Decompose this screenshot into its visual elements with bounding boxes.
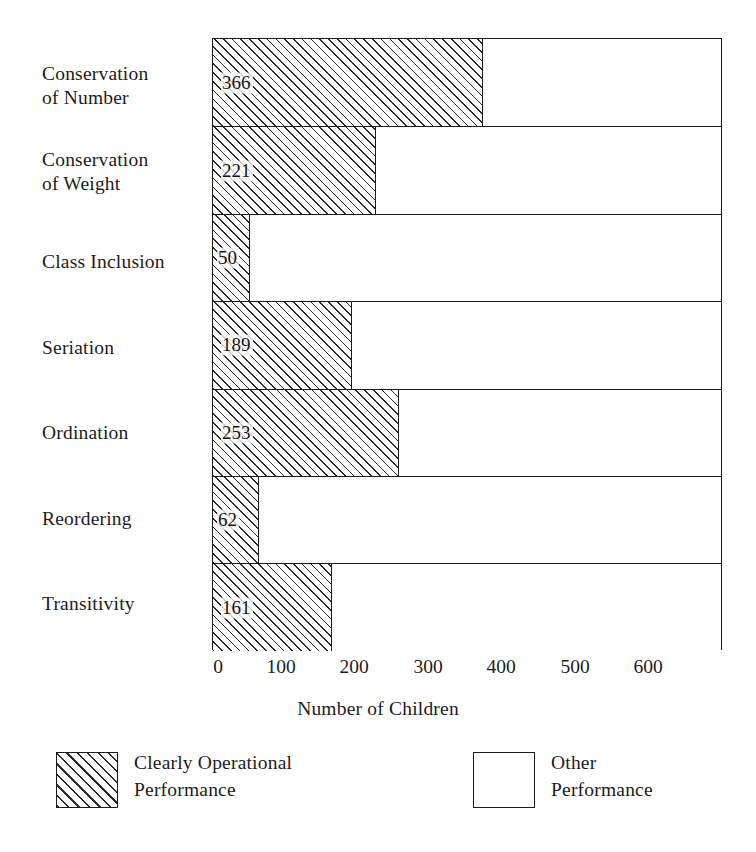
bar-value-label: 253 [221, 422, 253, 443]
category-label-ordination: Ordination [42, 421, 210, 445]
bar-segment-clearly-operational: 221 [213, 127, 376, 213]
bar-segment-other-performance [399, 390, 721, 476]
bar-value-label: 366 [221, 72, 253, 93]
xtick-label-500: 500 [560, 655, 589, 679]
bar-row-reordering: 62 [213, 476, 721, 563]
bar-segment-other-performance [332, 564, 721, 651]
bar-segment-other-performance [259, 477, 721, 563]
bar-value-label: 50 [217, 247, 239, 268]
bar-chart-figure: Conservation of Number Conservation of W… [0, 0, 756, 852]
bar-segment-clearly-operational: 253 [213, 390, 399, 476]
bar-value-label: 62 [217, 510, 239, 531]
category-label-transitivity: Transitivity [42, 592, 210, 616]
bar-segment-clearly-operational: 50 [213, 215, 250, 301]
legend-item-other-performance: Other Performance [473, 752, 743, 812]
xtick-label-600: 600 [633, 655, 662, 679]
bar-row-conservation-of-number: 366 [213, 39, 721, 126]
bar-row-conservation-of-weight: 221 [213, 126, 721, 213]
category-label-conservation-of-number: Conservation of Number [42, 62, 210, 110]
bar-row-seriation: 189 [213, 301, 721, 388]
xtick-label-300: 300 [413, 655, 442, 679]
category-label-conservation-of-weight: Conservation of Weight [42, 148, 210, 196]
bar-value-label: 221 [221, 160, 253, 181]
bar-segment-clearly-operational: 62 [213, 477, 259, 563]
bar-value-label: 189 [221, 335, 253, 356]
bar-row-class-inclusion: 50 [213, 214, 721, 301]
xtick-label-100: 100 [266, 655, 295, 679]
bar-segment-clearly-operational: 161 [213, 564, 332, 651]
xtick-label-400: 400 [486, 655, 515, 679]
legend-swatch-open-icon [473, 752, 535, 808]
bar-value-label: 161 [221, 597, 253, 618]
bar-segment-clearly-operational: 366 [213, 39, 483, 126]
bar-segment-clearly-operational: 189 [213, 302, 352, 388]
bar-row-ordination: 253 [213, 389, 721, 476]
legend-item-clearly-operational: Clearly Operational Performance [56, 752, 386, 812]
bar-segment-other-performance [250, 215, 721, 301]
plot-area: 366 221 50 189 253 [212, 38, 722, 650]
legend-label-clearly-operational: Clearly Operational Performance [134, 749, 292, 803]
legend-swatch-hatched-icon [56, 752, 118, 808]
bar-segment-other-performance [376, 127, 721, 213]
bar-segment-other-performance [483, 39, 721, 126]
xtick-label-200: 200 [339, 655, 368, 679]
category-label-class-inclusion: Class Inclusion [42, 250, 210, 274]
legend-label-other-performance: Other Performance [551, 749, 653, 803]
category-label-seriation: Seriation [42, 336, 210, 360]
x-axis-title: Number of Children [0, 697, 756, 721]
bar-segment-other-performance [352, 302, 721, 388]
category-label-reordering: Reordering [42, 507, 210, 531]
xtick-label-0: 0 [213, 655, 223, 679]
bar-row-transitivity: 161 [213, 563, 721, 651]
